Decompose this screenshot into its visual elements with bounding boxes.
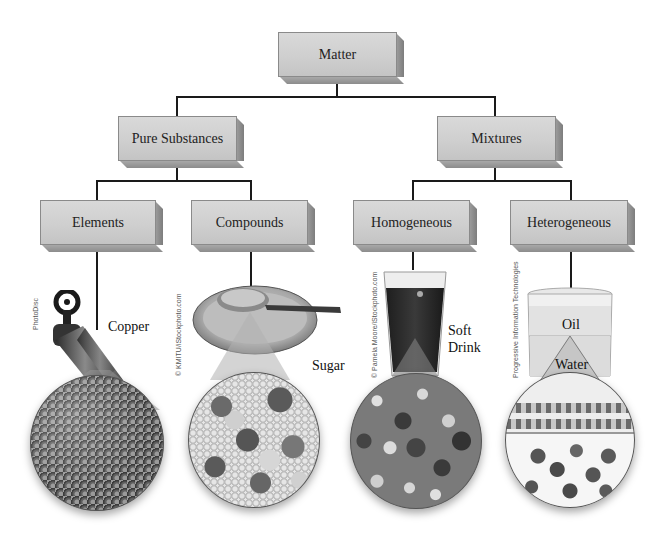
- node-matter: Matter: [278, 32, 404, 84]
- node-pure-label: Pure Substances: [118, 116, 237, 161]
- connector-to-mixtures: [494, 96, 496, 116]
- photo-credit-elements: PhotoDisc: [32, 298, 39, 330]
- box-bottom: [512, 245, 635, 252]
- box-side: [556, 118, 563, 161]
- node-elements: Elements: [40, 200, 163, 252]
- example-label-soft-drink-line2: Drink: [448, 339, 481, 356]
- node-pure-substances: Pure Substances: [118, 116, 244, 168]
- node-heterogeneous-label: Heterogeneous: [510, 200, 628, 245]
- node-heterogeneous: Heterogeneous: [510, 200, 635, 252]
- example-label-soft-drink-line1: Soft: [448, 322, 471, 339]
- soft-drink-glass-photo: [380, 268, 450, 378]
- node-mixtures-label: Mixtures: [437, 116, 556, 161]
- box-side: [628, 202, 635, 245]
- connector-to-homogeneous: [412, 180, 414, 200]
- box-side: [397, 34, 404, 77]
- box-bottom: [355, 245, 477, 252]
- box-side: [237, 118, 244, 161]
- box-side: [470, 202, 477, 245]
- connector-level1-horizontal: [176, 96, 496, 98]
- node-compounds: Compounds: [191, 200, 315, 252]
- connector-compounds-to-example: [250, 248, 252, 286]
- example-label-copper: Copper: [108, 318, 149, 335]
- example-label-water: Water: [555, 356, 588, 373]
- connector-to-compounds: [250, 180, 252, 200]
- photo-credit-compounds: © KMITU/iStockphoto.com: [175, 293, 182, 376]
- connector-to-pure: [176, 96, 178, 116]
- node-compounds-label: Compounds: [191, 200, 308, 245]
- box-bottom: [42, 245, 163, 252]
- example-label-oil: Oil: [562, 316, 580, 333]
- connector-heterogeneous-to-example: [570, 248, 572, 288]
- example-label-sugar: Sugar: [312, 357, 345, 374]
- node-homogeneous: Homogeneous: [353, 200, 477, 252]
- node-homogeneous-label: Homogeneous: [353, 200, 470, 245]
- photo-credit-homogeneous: © Pamela Moore/iStockphoto.com: [371, 272, 378, 378]
- box-bottom: [280, 77, 404, 84]
- box-bottom: [193, 245, 315, 252]
- magnified-view-copper-atoms: [30, 375, 164, 511]
- photo-credit-heterogeneous: Progressive Information Technologies: [512, 261, 519, 378]
- magnified-view-soft-drink-molecules: [350, 373, 482, 509]
- connector-level2-left-horizontal: [96, 180, 252, 182]
- node-mixtures: Mixtures: [437, 116, 563, 168]
- node-elements-label: Elements: [40, 200, 156, 245]
- connector-to-elements: [96, 180, 98, 200]
- node-matter-label: Matter: [278, 32, 397, 77]
- magnified-view-oil-water-molecules: [505, 372, 635, 508]
- box-bottom: [120, 161, 244, 168]
- box-bottom: [439, 161, 563, 168]
- connector-to-heterogeneous: [570, 180, 572, 200]
- connector-level2-right-horizontal: [412, 180, 572, 182]
- magnified-view-sugar-molecules: [188, 372, 320, 508]
- box-side: [308, 202, 315, 245]
- box-side: [156, 202, 163, 245]
